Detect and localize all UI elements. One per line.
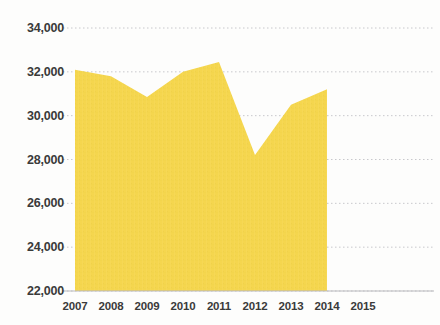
- x-axis-tick-label: 2009: [135, 301, 160, 313]
- x-axis-tick-label: 2010: [171, 301, 196, 313]
- y-axis-tick-label: 32,000: [8, 66, 64, 79]
- x-axis-tick-label: 2011: [207, 301, 231, 313]
- y-axis-tick-label: 26,000: [8, 197, 64, 210]
- y-axis-tick-label: 34,000: [8, 22, 64, 35]
- x-axis-tick-label: 2007: [63, 301, 88, 313]
- x-axis-tick-label: 2012: [243, 301, 268, 313]
- y-axis-tick-label: 24,000: [8, 241, 64, 254]
- y-axis-tick-label: 22,000: [8, 285, 64, 298]
- area-series: [75, 62, 327, 291]
- y-axis-tick-label: 30,000: [8, 109, 64, 122]
- chart-canvas: [0, 0, 440, 325]
- x-axis-tick-label: 2008: [99, 301, 124, 313]
- x-axis-tick-label: 2013: [279, 301, 304, 313]
- x-axis-tick-label: 2015: [351, 301, 376, 313]
- x-axis-tick-label: 2014: [315, 301, 340, 313]
- area-chart: 22,00024,00026,00028,00030,00032,00034,0…: [0, 0, 440, 325]
- y-axis-tick-label: 28,000: [8, 153, 64, 166]
